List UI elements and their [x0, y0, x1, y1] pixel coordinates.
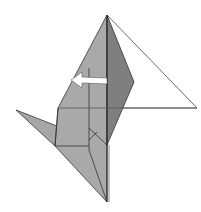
body-main — [55, 15, 107, 202]
origami-figure — [0, 0, 201, 212]
origami-diagram — [0, 0, 201, 212]
